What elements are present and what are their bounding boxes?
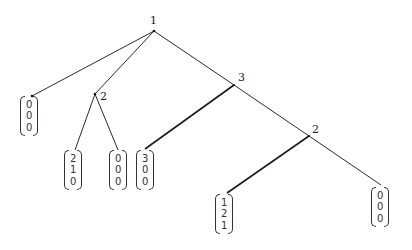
- right-paren: [149, 150, 154, 190]
- vector-entry: 0: [70, 176, 76, 188]
- vector-entry: 2: [70, 153, 76, 165]
- vector-entry: 0: [377, 201, 383, 213]
- node-dot-n3: [233, 84, 235, 86]
- vector-entry: 0: [26, 99, 32, 111]
- vector-entry: 1: [221, 220, 227, 232]
- vector-entry: 0: [115, 164, 121, 176]
- vector-entry: 1: [70, 164, 76, 176]
- vector-entry: 0: [142, 176, 148, 188]
- edge-root-n2: [95, 31, 154, 94]
- node-dot-n2: [94, 93, 97, 96]
- vector-entry: 0: [142, 164, 148, 176]
- node-dot-root: [153, 30, 156, 33]
- leaf-vector-b: 2 1 0: [64, 150, 82, 190]
- vector-entry: 0: [377, 213, 383, 225]
- right-paren: [33, 96, 38, 136]
- leaf-vector-f: 0 0 0: [371, 187, 389, 227]
- right-paren: [228, 194, 233, 234]
- edge-n2b-leaf-f: [309, 136, 381, 185]
- node-label-n3: 3: [238, 71, 245, 84]
- edge-n3-leaf-d: [145, 85, 234, 149]
- edge-root-n3: [154, 31, 234, 85]
- tree-diagram: 1 2 3 2: [0, 0, 412, 250]
- leaf-vector-d: 3 0 0: [136, 150, 154, 190]
- vector-entry: 0: [26, 110, 32, 122]
- right-paren: [384, 187, 389, 227]
- vector-entry: 0: [377, 190, 383, 202]
- vector-entry: 2: [221, 208, 227, 220]
- leaf-vector-c: 0 0 0: [109, 150, 127, 190]
- right-paren: [77, 150, 82, 190]
- leaf-vector-e: 1 2 1: [215, 194, 233, 234]
- node-label-n2: 2: [100, 90, 107, 103]
- vector-entry: 0: [115, 153, 121, 165]
- edge-n2-leaf-b: [75, 94, 95, 150]
- vector-entry: 3: [142, 153, 148, 165]
- edge-n2b-leaf-e: [227, 136, 309, 193]
- vector-entry: 0: [115, 176, 121, 188]
- leaf-vector-a: 0 0 0: [20, 96, 38, 136]
- node-label-root: 1: [150, 14, 157, 27]
- node-dot-n2b: [308, 135, 310, 137]
- vector-entry: 1: [221, 197, 227, 209]
- edge-root-leaf-a: [32, 31, 154, 96]
- vector-entry: 0: [26, 122, 32, 134]
- right-paren: [122, 150, 127, 190]
- node-label-n2b: 2: [312, 123, 319, 136]
- edge-n3-n2b: [234, 85, 309, 136]
